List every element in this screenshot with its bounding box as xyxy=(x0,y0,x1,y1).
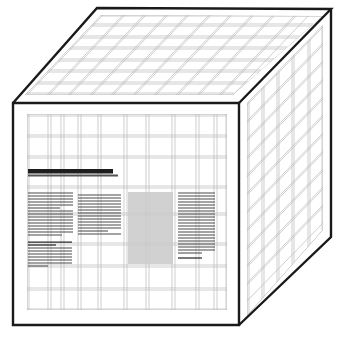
image-block xyxy=(128,192,173,264)
text-block-left-upper xyxy=(28,193,73,235)
headline-bar xyxy=(28,169,113,174)
headline-bar-underline xyxy=(28,175,118,177)
cube-illustration xyxy=(0,0,348,342)
figure-canvas xyxy=(0,0,348,342)
text-block-right xyxy=(178,193,215,253)
